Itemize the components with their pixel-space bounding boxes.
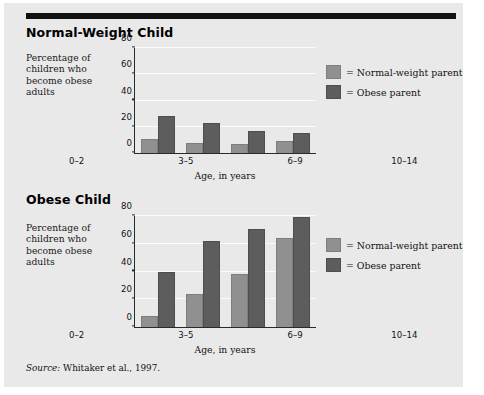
bar-group (137, 48, 179, 153)
figure-page: Normal-Weight Child Percentage of childr… (0, 0, 484, 395)
x-tick-labels: 0–23–56–910–14 (22, 330, 459, 340)
legend: = Normal-weight parent = Obese parent (326, 65, 476, 105)
bar-group (182, 48, 224, 153)
bar-obese (248, 229, 265, 328)
axes: 020406080 (134, 216, 316, 328)
bar-group (227, 216, 269, 327)
x-tick-label: 6–9 (245, 330, 346, 340)
chart-normal-weight-child: Percentage of children who become obese … (0, 44, 459, 189)
source-prefix: Source: (26, 363, 60, 373)
source-citation: Whitaker et al., 1997. (63, 363, 160, 373)
legend: = Normal-weight parent = Obese parent (326, 238, 476, 278)
bar-groups (135, 48, 316, 153)
legend-label-normal-weight: = Normal-weight parent (346, 67, 463, 78)
x-tick-label: 0–2 (26, 156, 127, 166)
plot-area: 020406080 (112, 216, 316, 328)
bar-obese (203, 123, 220, 153)
bar-group (273, 48, 315, 153)
y-axis-label: Percentage of children who become obese … (26, 222, 112, 268)
bar-group (273, 216, 315, 327)
source-note: Source: Whitaker et al., 1997. (26, 363, 160, 373)
bar-normal-weight (186, 294, 203, 327)
bar-normal-weight (186, 143, 203, 154)
bar-normal-weight (231, 144, 248, 153)
y-tick-label: 20 (121, 112, 132, 122)
y-tick-label: 40 (121, 86, 132, 96)
legend-swatch-normal-weight (326, 238, 341, 252)
y-tick-label: 0 (127, 138, 132, 148)
x-tick-label: 3–5 (136, 156, 237, 166)
x-axis-label: Age, in years (134, 344, 316, 355)
chart-obese-child: Percentage of children who become obese … (0, 212, 459, 362)
legend-item-obese: = Obese parent (326, 258, 476, 272)
panel-title-normal-weight: Normal-Weight Child (26, 25, 173, 40)
bar-obese (203, 241, 220, 327)
bar-group (227, 48, 269, 153)
bar-normal-weight (141, 139, 158, 153)
bar-normal-weight (276, 141, 293, 153)
axes: 020406080 (134, 48, 316, 154)
y-tick-label: 80 (121, 201, 132, 211)
y-tick-label: 20 (121, 284, 132, 294)
header-rule (26, 13, 456, 19)
panel-title-obese-child: Obese Child (26, 192, 111, 207)
x-tick-labels: 0–23–56–910–14 (22, 156, 459, 166)
bar-obese (158, 272, 175, 328)
bar-groups (135, 216, 316, 327)
y-tick-label: 80 (121, 33, 132, 43)
x-tick-label: 0–2 (26, 330, 127, 340)
bar-obese (293, 217, 310, 327)
legend-swatch-obese (326, 85, 341, 99)
x-tick-label: 10–14 (354, 156, 455, 166)
y-tick-label: 60 (121, 229, 132, 239)
bar-group (182, 216, 224, 327)
legend-item-normal-weight: = Normal-weight parent (326, 65, 476, 79)
bar-group (137, 216, 179, 327)
legend-swatch-normal-weight (326, 65, 341, 79)
legend-swatch-obese (326, 258, 341, 272)
y-axis-label: Percentage of children who become obese … (26, 52, 112, 98)
plot-area: 020406080 (112, 48, 316, 154)
x-tick-label: 10–14 (354, 330, 455, 340)
y-tick-label: 0 (127, 312, 132, 322)
legend-item-obese: = Obese parent (326, 85, 476, 99)
legend-label-obese: = Obese parent (346, 87, 421, 98)
y-tick-label: 60 (121, 59, 132, 69)
bar-obese (293, 133, 310, 153)
legend-label-normal-weight: = Normal-weight parent (346, 240, 463, 251)
x-axis-label: Age, in years (134, 170, 316, 181)
legend-label-obese: = Obese parent (346, 260, 421, 271)
bar-normal-weight (141, 316, 158, 327)
x-tick-label: 3–5 (136, 330, 237, 340)
bar-normal-weight (276, 238, 293, 327)
bar-obese (158, 116, 175, 153)
x-tick-label: 6–9 (245, 156, 346, 166)
y-tick-label: 40 (121, 257, 132, 267)
bar-normal-weight (231, 274, 248, 327)
bar-obese (248, 131, 265, 153)
legend-item-normal-weight: = Normal-weight parent (326, 238, 476, 252)
